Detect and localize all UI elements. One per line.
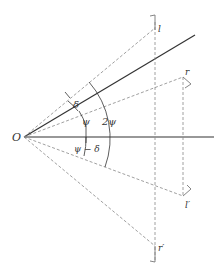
tick-delta: [65, 92, 70, 98]
label-l-prime: l′: [185, 200, 190, 210]
bracket-r: [183, 77, 191, 88]
label-r: r: [185, 67, 190, 77]
bracket-l-prime: [183, 185, 191, 196]
bracket-l: [150, 15, 155, 30]
label-delta: δ: [73, 99, 79, 110]
label-r-prime: r′: [158, 243, 164, 253]
bracket-r-prime: [150, 246, 155, 262]
label-l: l: [158, 24, 161, 34]
ray-r: [24, 77, 183, 137]
label-psi: ψ: [82, 116, 90, 127]
diagram-canvas: O l r l′ r′ δ ψ 2ψ ψ − δ: [0, 0, 214, 277]
ray-l-prime: [24, 137, 183, 196]
label-origin: O: [12, 131, 21, 144]
label-psi-delta: ψ − δ: [74, 144, 100, 154]
label-2psi: 2ψ: [101, 116, 116, 127]
